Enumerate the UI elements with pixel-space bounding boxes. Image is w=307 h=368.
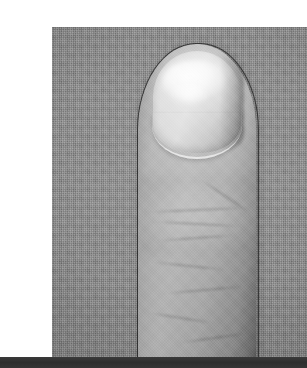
fingernail	[153, 51, 241, 153]
fingertip-photograph	[52, 27, 307, 363]
bottom-rule	[0, 357, 307, 368]
page-root	[0, 0, 307, 368]
